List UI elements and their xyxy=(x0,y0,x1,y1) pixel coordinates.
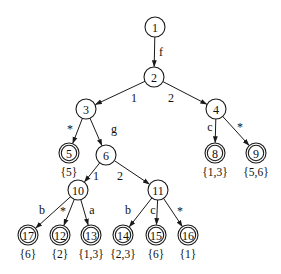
edge-2-to-3 xyxy=(96,81,146,104)
node-label: 14 xyxy=(117,229,129,243)
node-17: 17 xyxy=(18,225,38,245)
set-label-9: {5,6} xyxy=(243,166,268,179)
edge-label-3-5: * xyxy=(67,122,73,136)
node-label: 9 xyxy=(253,147,259,161)
node-label: 10 xyxy=(72,184,84,198)
set-label-8: {1,3} xyxy=(202,166,227,179)
set-label-5: {5} xyxy=(61,166,78,178)
node-16: 16 xyxy=(178,225,198,245)
edge-4-to-8 xyxy=(215,119,216,143)
node-15: 15 xyxy=(146,225,166,245)
node-label: 2 xyxy=(151,71,157,85)
node-2: 2 xyxy=(144,67,164,87)
node-8: 8 xyxy=(205,143,225,163)
node-1: 1 xyxy=(145,17,165,37)
node-14: 14 xyxy=(113,225,133,245)
edge-3-to-5 xyxy=(73,118,83,143)
edge-label-1-2: f xyxy=(159,45,163,59)
edge-label-11-15: c xyxy=(150,203,155,217)
edge-label-4-8: c xyxy=(207,120,212,134)
set-label-16: {1} xyxy=(180,248,197,260)
node-label: 3 xyxy=(83,103,89,117)
node-11: 11 xyxy=(148,180,168,200)
set-label-17: {6} xyxy=(20,248,37,260)
edge-11-to-14 xyxy=(129,198,152,227)
edge-1-to-2 xyxy=(154,37,155,67)
node-label: 1 xyxy=(152,21,158,35)
edge-label-6-10: 1 xyxy=(93,169,99,183)
edge-label-2-3: 1 xyxy=(131,91,137,105)
node-9: 9 xyxy=(246,143,266,163)
node-label: 8 xyxy=(212,147,218,161)
node-13: 13 xyxy=(81,225,101,245)
edge-label-11-14: b xyxy=(125,203,131,217)
node-label: 6 xyxy=(103,149,109,163)
node-10: 10 xyxy=(68,180,88,200)
edge-label-10-17: b xyxy=(39,203,45,217)
node-label: 4 xyxy=(213,103,219,117)
set-label-14: {2,3} xyxy=(110,248,135,261)
set-label-13: {1,3} xyxy=(78,248,103,261)
edge-label-11-16: * xyxy=(177,204,183,218)
node-label: 16 xyxy=(182,229,194,243)
node-label: 11 xyxy=(152,184,164,198)
node-label: 5 xyxy=(66,147,72,161)
edge-10-to-13 xyxy=(81,200,88,225)
set-label-12: {2} xyxy=(52,248,69,260)
node-3: 3 xyxy=(76,99,96,119)
node-4: 4 xyxy=(206,99,226,119)
tree-diagram: f12*gc*12b*abc* 123456891011171213141516… xyxy=(0,0,281,274)
node-label: 12 xyxy=(54,229,66,243)
edge-label-4-9: * xyxy=(237,120,243,134)
edge-label-10-12: * xyxy=(60,204,66,218)
node-label: 15 xyxy=(150,229,162,243)
set-label-15: {6} xyxy=(148,248,165,260)
node-5: 5 xyxy=(59,143,79,163)
node-12: 12 xyxy=(50,225,70,245)
edge-11-to-15 xyxy=(157,200,158,225)
edge-4-to-9 xyxy=(223,116,249,145)
edge-label-3-6: g xyxy=(111,122,117,136)
edge-label-2-4: 2 xyxy=(168,91,174,105)
edge-3-to-6 xyxy=(90,118,102,145)
edge-label-6-11: 2 xyxy=(117,169,123,183)
node-6: 6 xyxy=(96,145,116,165)
node-label: 17 xyxy=(22,229,34,243)
edge-label-10-13: a xyxy=(89,203,95,217)
node-label: 13 xyxy=(85,229,97,243)
